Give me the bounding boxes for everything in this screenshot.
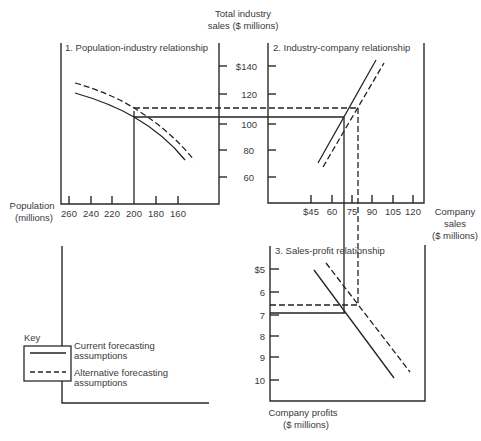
population-axis-title-2: (millions) — [15, 212, 53, 223]
profit-tick-9: 9 — [260, 352, 265, 363]
panel3-current-line — [314, 270, 394, 378]
company-sales-axis-title-1: Company — [435, 206, 476, 217]
company-sales-axis-title-2: sales — [444, 218, 466, 229]
key-current-2: assumptions — [74, 350, 128, 361]
population-axis-title-1: Population — [10, 200, 55, 211]
key-alternative-2: assumptions — [74, 377, 128, 388]
panel3-frame — [270, 245, 425, 401]
company-profits-axis-title-2: ($ millions) — [283, 419, 329, 430]
csales-tick-75: 75 — [347, 206, 358, 217]
sales-tick-100: 100 — [241, 119, 257, 130]
csales-tick-60: 60 — [327, 206, 338, 217]
csales-tick-120: 120 — [405, 206, 421, 217]
industry-sales-axis-title-2: sales ($ millions) — [208, 20, 279, 31]
profit-tick-5: $5 — [254, 264, 265, 275]
csales-tick-45: $45 — [303, 206, 319, 217]
profit-tick-8: 8 — [260, 331, 265, 342]
panel1-label: 1. Population-industry relationship — [65, 42, 208, 53]
sales-tick-80: 80 — [243, 145, 254, 156]
panel1-current-curve — [75, 93, 185, 160]
company-profits-axis-title-1: Company profits — [268, 407, 337, 418]
pop-tick-260: 260 — [61, 208, 77, 219]
csales-tick-105: 105 — [385, 206, 401, 217]
pop-tick-220: 220 — [104, 208, 120, 219]
sales-tick-120: 120 — [241, 89, 257, 100]
pop-tick-200: 200 — [126, 208, 142, 219]
panel2-frame — [268, 43, 424, 203]
pop-tick-240: 240 — [83, 208, 99, 219]
profit-tick-10: 10 — [254, 375, 265, 386]
panel2-alternative-line — [323, 63, 384, 167]
company-sales-axis-title-3: ($ millions) — [432, 230, 478, 241]
profit-tick-7: 7 — [260, 310, 265, 321]
industry-sales-axis-title-1: Total industry — [215, 8, 271, 19]
panel2-current-line — [318, 60, 376, 163]
pop-tick-180: 180 — [148, 208, 164, 219]
key-box — [24, 346, 71, 381]
pop-tick-160: 160 — [170, 208, 186, 219]
forecasting-diagram: Total industry sales ($ millions) 1. Pop… — [0, 0, 481, 441]
panel1-frame — [61, 43, 219, 204]
panel-population-industry: 1. Population-industry relationship 260 … — [10, 42, 219, 223]
panel3-label: 3. Sales-profit relationship — [275, 245, 385, 256]
sales-tick-60: 60 — [243, 172, 254, 183]
key-title: Key — [24, 332, 41, 343]
panel2-label: 2. Industry-company relationship — [273, 42, 410, 53]
panel3-alternative-line — [326, 263, 410, 372]
panel-sales-profit: 3. Sales-profit relationship $5 6 7 8 9 … — [254, 245, 425, 430]
profit-tick-6: 6 — [260, 287, 265, 298]
legend-key: Key Current forecasting assumptions Alte… — [24, 332, 168, 388]
csales-tick-90: 90 — [367, 206, 378, 217]
panel-industry-company: 2. Industry-company relationship $45 60 … — [268, 42, 478, 241]
sales-tick-140: $140 — [236, 61, 257, 72]
